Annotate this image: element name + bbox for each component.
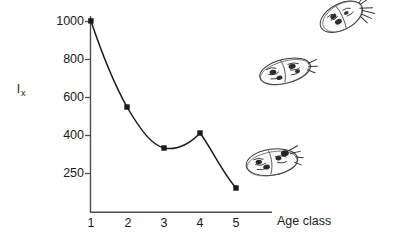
axes — [90, 16, 272, 213]
beetle-illustration-bottom — [244, 145, 305, 179]
y-axis-ticks — [85, 22, 90, 174]
data-point-age-3 — [161, 145, 166, 150]
data-point-age-2 — [124, 104, 129, 109]
data-point-age-4 — [197, 130, 202, 135]
survivorship-curve-figure: lx 1000 800 600 400 250 1 2 3 4 5 Age cl… — [0, 0, 396, 242]
survivorship-curve-line — [91, 21, 236, 188]
data-point-age-1 — [88, 18, 93, 23]
beetle-illustration-middle — [257, 51, 321, 89]
beetle-illustration-top — [315, 0, 378, 43]
data-point-age-5 — [233, 185, 238, 190]
data-point-markers — [88, 18, 239, 191]
plot-area — [0, 0, 396, 242]
